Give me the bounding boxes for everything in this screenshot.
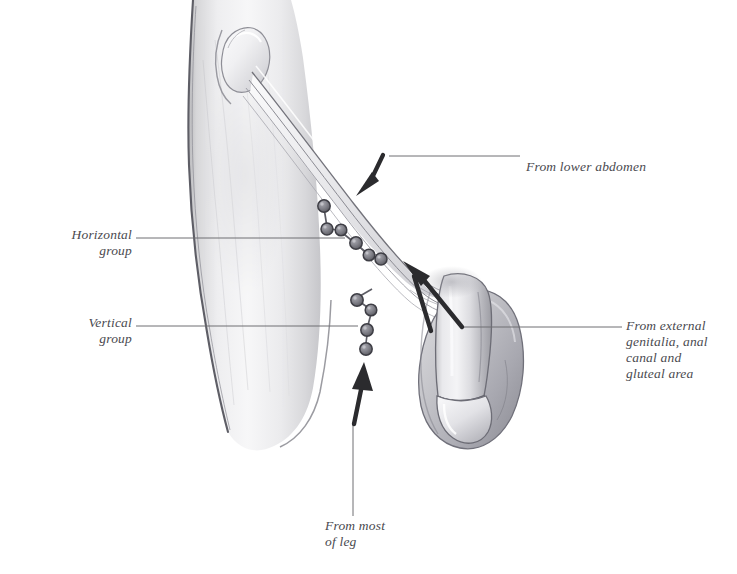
lymph-node [363,249,375,261]
lymph-node [375,253,387,265]
label-from-most-of-leg: From most of leg [325,518,445,550]
lymph-node [350,237,362,249]
lymph-node [321,223,333,235]
label-from-lower-abdomen: From lower abdomen [526,159,726,175]
lymph-node [351,294,363,306]
label-vertical-group: Vertical group [10,315,132,347]
lymph-node [365,304,377,316]
label-horizontal-group: Horizontal group [10,227,132,259]
lymph-node [318,200,330,212]
illustration-svg [0,0,737,574]
anatomical-figure: Horizontal group Vertical group From low… [0,0,737,574]
root-shading [422,266,482,298]
lymph-node [335,224,347,236]
lymph-node [360,343,372,355]
lymph-node [361,324,373,336]
label-from-external-genitalia: From external genitalia, anal canal and … [626,318,736,382]
arrow-from-lower-abdomen [356,155,383,196]
